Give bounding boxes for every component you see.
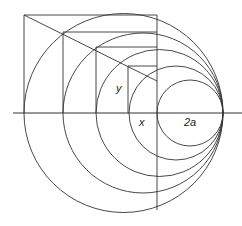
diagonal-line xyxy=(24,15,157,81)
label-x: x xyxy=(138,116,145,128)
diagram-canvas: y x 2a xyxy=(0,0,242,226)
nested-circles-diagram: y x 2a xyxy=(0,0,242,226)
label-y: y xyxy=(115,82,123,94)
label-2a: 2a xyxy=(183,116,196,128)
